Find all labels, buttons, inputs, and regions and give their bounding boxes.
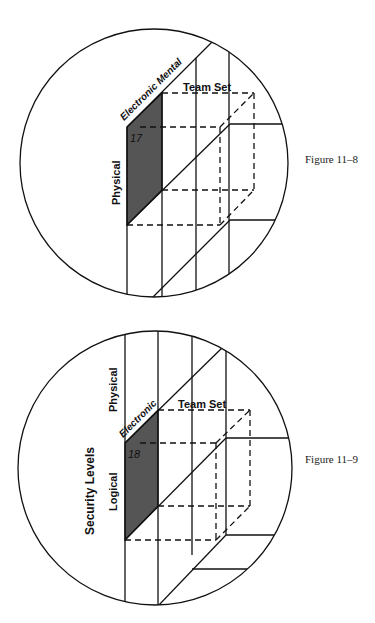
label-physical: Physical — [110, 160, 122, 205]
cell-number-18: 18 — [128, 448, 141, 460]
figures-canvas: Electronic Mental Team Set Physical 17 — [0, 0, 375, 623]
label-physical: Physical — [107, 367, 119, 412]
cell-number-17: 17 — [130, 132, 143, 144]
figure-caption-11-8: Figure 11–8 — [305, 153, 358, 165]
label-security-levels: Security Levels — [83, 447, 97, 535]
figure-caption-11-9: Figure 11–9 — [305, 453, 358, 465]
label-team-set: Team Set — [178, 398, 226, 410]
label-team-set: Team Set — [183, 81, 231, 93]
figure-11-9-diagram: Electronic Team Set Physical Logical Sec… — [18, 320, 300, 615]
figure-11-8-diagram: Electronic Mental Team Set Physical 17 — [20, 24, 300, 310]
label-logical: Logical — [107, 472, 119, 511]
